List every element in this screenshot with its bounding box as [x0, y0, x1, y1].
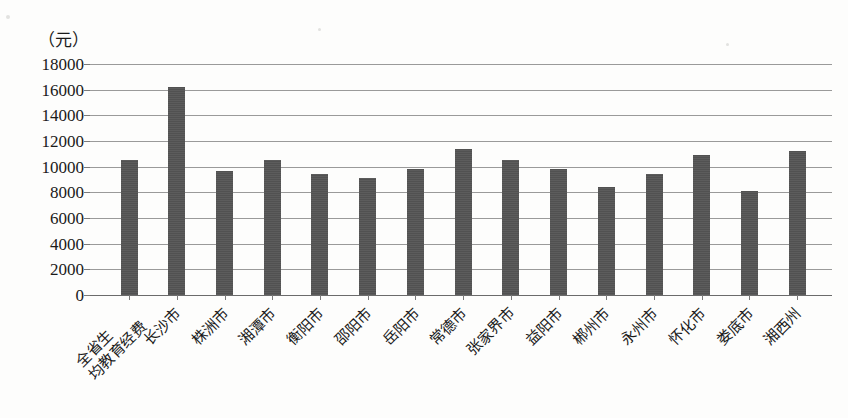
y-tick-label: 12000	[6, 133, 84, 150]
scan-speck	[6, 15, 10, 19]
gridline	[90, 64, 832, 65]
x-category-label: 张家界市	[464, 305, 518, 359]
y-axis-tick-labels: 1800016000140001200010000800060004000200…	[0, 64, 84, 295]
x-category-label: 益阳市	[523, 305, 567, 349]
x-category-label: 郴州市	[570, 305, 614, 349]
y-tick-label: 10000	[6, 159, 84, 176]
y-tick-label: 16000	[6, 82, 84, 99]
x-category-label: 全省生均教育经费	[72, 305, 150, 383]
x-category-label: 娄底市	[714, 305, 758, 349]
bar	[693, 155, 710, 295]
bar	[264, 160, 281, 295]
bar	[598, 187, 615, 295]
bar	[359, 178, 376, 295]
bar	[168, 87, 185, 295]
gridline	[90, 141, 832, 142]
x-category-label: 衡阳市	[284, 305, 328, 349]
bar	[502, 160, 519, 295]
bar	[407, 169, 424, 295]
bar	[216, 171, 233, 295]
bar	[741, 191, 758, 295]
x-category-label: 常德市	[427, 305, 471, 349]
y-tick-label: 14000	[6, 107, 84, 124]
x-category-label: 怀化市	[666, 305, 710, 349]
bar	[646, 174, 663, 295]
bar	[121, 160, 138, 295]
bar	[789, 151, 806, 295]
y-tick-label: 8000	[6, 184, 84, 201]
plot-area	[90, 64, 832, 295]
y-tick-label: 2000	[6, 261, 84, 278]
gridline	[90, 90, 832, 91]
x-category-label: 湘西州	[761, 305, 805, 349]
y-tick-label: 18000	[6, 56, 84, 73]
y-tick-label: 4000	[6, 236, 84, 253]
x-category-label: 株洲市	[189, 305, 233, 349]
x-axis-category-labels: 全省生均教育经费长沙市株洲市湘潭市衡阳市邵阳市岳阳市常德市张家界市益阳市郴州市永…	[0, 295, 848, 415]
y-axis-unit-label: （元）	[38, 26, 89, 51]
bar	[455, 149, 472, 295]
x-category-label: 湘潭市	[236, 305, 280, 349]
y-tick-label: 6000	[6, 210, 84, 227]
chart-page: （元） 180001600014000120001000080006000400…	[0, 0, 848, 418]
x-category-label: 邵阳市	[332, 305, 376, 349]
scan-speck	[726, 43, 729, 46]
scan-speck	[318, 28, 321, 31]
x-category-label: 岳阳市	[380, 305, 424, 349]
bar	[550, 169, 567, 295]
bar	[311, 174, 328, 295]
x-category-label: 永州市	[618, 305, 662, 349]
gridline	[90, 115, 832, 116]
